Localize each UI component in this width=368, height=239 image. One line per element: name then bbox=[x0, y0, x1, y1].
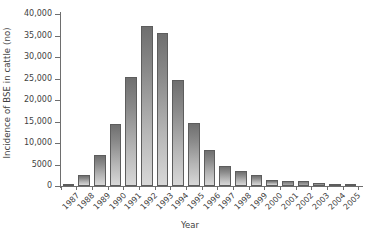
y-axis-tick bbox=[55, 186, 60, 187]
x-axis-tick bbox=[61, 186, 62, 190]
bar bbox=[282, 181, 294, 186]
x-axis-line bbox=[60, 186, 363, 187]
x-axis-tick bbox=[327, 186, 328, 190]
bar bbox=[110, 124, 122, 186]
bar bbox=[63, 184, 75, 186]
y-axis-tick-label: 30,000 bbox=[0, 53, 52, 61]
y-axis-tick-label: 20,000 bbox=[0, 96, 52, 104]
x-axis-tick bbox=[311, 186, 312, 190]
bar bbox=[251, 175, 263, 186]
y-axis-tick-label: 35,000 bbox=[0, 32, 52, 40]
x-axis-tick bbox=[76, 186, 77, 190]
x-axis-tick bbox=[343, 186, 344, 190]
x-axis-tick bbox=[123, 186, 124, 190]
y-axis-tick-label: 15,000 bbox=[0, 118, 52, 126]
x-axis-tick bbox=[233, 186, 234, 190]
y-axis-tick-label: 5000 bbox=[0, 161, 52, 169]
x-axis-tick bbox=[249, 186, 250, 190]
y-axis-tick-label: 0 bbox=[0, 182, 52, 190]
y-axis-tick-label: 10,000 bbox=[0, 139, 52, 147]
bar bbox=[125, 77, 137, 186]
y-axis-tick-label: 25,000 bbox=[0, 75, 52, 83]
x-axis-tick bbox=[139, 186, 140, 190]
bar bbox=[345, 184, 357, 186]
bar bbox=[298, 181, 310, 186]
bar bbox=[204, 150, 216, 186]
bar bbox=[78, 175, 90, 186]
y-axis-title: Incidence of BSE in cattle (no) bbox=[0, 0, 14, 186]
bar bbox=[329, 184, 341, 186]
bar bbox=[235, 171, 247, 186]
plot-area bbox=[60, 14, 363, 186]
bar bbox=[94, 155, 106, 186]
x-axis-tick bbox=[202, 186, 203, 190]
bar bbox=[313, 183, 325, 186]
bse-incidence-bar-chart: Incidence of BSE in cattle (no) 0500010,… bbox=[0, 0, 368, 239]
x-axis-tick bbox=[170, 186, 171, 190]
bar bbox=[219, 166, 231, 186]
x-axis-tick bbox=[92, 186, 93, 190]
x-axis-tick bbox=[108, 186, 109, 190]
bar bbox=[266, 180, 278, 186]
bar bbox=[188, 123, 200, 186]
x-axis-title: Year bbox=[160, 220, 220, 230]
y-axis-tick-label: 40,000 bbox=[0, 10, 52, 18]
x-axis-tick bbox=[155, 186, 156, 190]
bar bbox=[141, 26, 153, 186]
x-axis-tick bbox=[296, 186, 297, 190]
x-axis-tick bbox=[217, 186, 218, 190]
x-axis-tick bbox=[358, 186, 359, 190]
bar bbox=[157, 33, 169, 186]
x-axis-tick bbox=[186, 186, 187, 190]
bar bbox=[172, 80, 184, 186]
x-axis-tick bbox=[280, 186, 281, 190]
x-axis-tick bbox=[264, 186, 265, 190]
